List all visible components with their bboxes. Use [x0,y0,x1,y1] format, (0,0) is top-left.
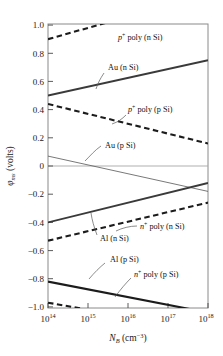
series-line-al-n-si [48,183,208,223]
leader-au-n-si [96,73,104,89]
leader-n-plus-poly-p-si [115,278,131,297]
curve-label-n-plus-poly-p-si: n+ poly (p Si) [134,269,179,279]
series-line-au-p-si [48,156,208,191]
y-tick-label: −0.2 [28,189,44,199]
x-axis-tick-labels: 1014 1015 1016 1017 1018 [40,312,213,324]
y-tick-label: 0.8 [33,49,45,59]
curve-label-p-plus-poly-n-si: p+ poly (n Si) [117,32,163,42]
y-tick-label: 0 [40,161,45,171]
y-tick-label: −0.6 [28,246,45,256]
leader-al-n-si [91,213,97,235]
chart-canvas: 1.0 0.8 0.6 0.4 0.2 0 −0.2 −0.4 −0.6 −0.… [0,0,223,356]
y-tick-label: −1.0 [28,302,45,312]
curve-label-au-p-si: Au (p Si) [105,141,136,150]
y-tick-label: 0.6 [33,77,45,87]
x-tick-label: 1016 [120,312,135,324]
x-axis-title: NB (cm−3) [108,332,146,345]
x-tick-label: 1017 [160,312,175,324]
x-tick-label: 1014 [40,312,55,324]
leader-n-plus-poly-n-si [116,226,137,231]
curve-label-p-plus-poly-p-si: p+ poly (p Si) [127,104,173,114]
leader-au-p-si [85,146,101,161]
y-axis-ticks [48,25,53,307]
y-axis-tick-labels: 1.0 0.8 0.6 0.4 0.2 0 −0.2 −0.4 −0.6 −0.… [28,20,45,312]
x-tick-label: 1015 [80,312,95,324]
work-function-difference-chart: 1.0 0.8 0.6 0.4 0.2 0 −0.2 −0.4 −0.6 −0.… [0,0,223,356]
leader-al-p-si [89,263,105,279]
curve-label-al-p-si: Al (p Si) [110,255,139,264]
curve-label-al-n-si: Al (n Si) [100,234,129,243]
y-axis-title: φms (volts) [5,146,16,186]
curve-label-n-plus-poly-n-si: n+ poly (n Si) [140,221,185,231]
y-tick-label: 0.2 [33,133,44,143]
x-tick-label: 1018 [198,312,213,324]
y-tick-label: 0.4 [33,105,45,115]
y-tick-label: −0.4 [28,218,45,228]
y-tick-label: −0.8 [28,274,45,284]
curve-label-au-n-si: Au (n Si) [108,63,139,72]
y-tick-label: 1.0 [33,20,45,30]
